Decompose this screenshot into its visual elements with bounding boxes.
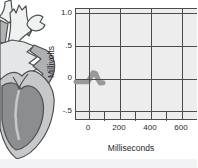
y-tick-label: 1.0 — [40, 8, 72, 18]
gridline-horizontal — [76, 46, 197, 47]
gray-wedge — [0, 20, 8, 44]
gridline-horizontal — [76, 79, 197, 80]
gridline-horizontal — [76, 13, 197, 14]
minor-tick — [104, 112, 105, 121]
x-tick-label: 0 — [75, 123, 101, 133]
y-tick-label: -.5 — [40, 106, 72, 116]
y-tick-label: .5 — [40, 41, 72, 51]
gridline-vertical — [89, 9, 90, 119]
minor-tick — [166, 112, 167, 121]
x-tick-label: 600 — [168, 123, 194, 133]
gridline-vertical — [182, 9, 183, 119]
ecg-trace — [76, 9, 197, 121]
gridline-horizontal — [76, 111, 197, 112]
x-tick-label: 400 — [137, 123, 163, 133]
y-tick-label: 0 — [40, 73, 72, 83]
plot-area — [75, 8, 197, 120]
x-tick-label: 200 — [106, 123, 132, 133]
bottom-shading — [0, 159, 197, 168]
gridline-vertical — [120, 9, 121, 119]
x-axis-title: Milliseconds — [76, 143, 186, 153]
minor-tick — [197, 112, 198, 121]
figure: Millivolts 1.0.50-.5 0200400600 Millisec… — [0, 0, 197, 168]
minor-tick — [135, 112, 136, 121]
gridline-vertical — [151, 9, 152, 119]
